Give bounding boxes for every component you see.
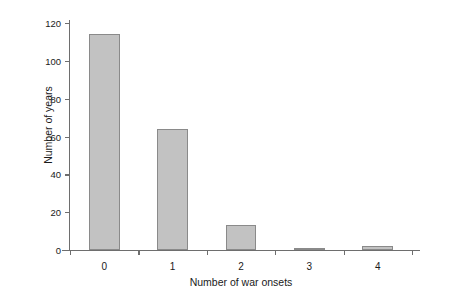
y-axis-tick-label: 120 <box>45 18 61 29</box>
y-axis-tick-label: 80 <box>50 93 61 104</box>
x-axis-tick-label: 4 <box>375 261 381 272</box>
y-axis-tick-label: 100 <box>45 55 61 66</box>
x-axis-tick <box>70 250 71 255</box>
plot-area: 02040608010012001234 <box>70 23 412 250</box>
x-axis-tick <box>207 250 208 255</box>
y-axis-tick-label: 20 <box>50 207 61 218</box>
x-axis-title: Number of war onsets <box>70 276 412 288</box>
y-axis-tick-label: 40 <box>50 169 61 180</box>
y-axis-tick <box>65 174 70 175</box>
y-axis-tick <box>65 212 70 213</box>
y-axis-tick <box>65 137 70 138</box>
x-axis-tick <box>138 250 139 255</box>
bar <box>89 34 120 250</box>
x-axis-tick <box>412 250 413 255</box>
bar-chart-figure: Number of years 02040608010012001234 Num… <box>0 0 449 303</box>
x-axis-tick <box>344 250 345 255</box>
x-axis-tick-label: 0 <box>101 261 107 272</box>
bar <box>294 248 325 250</box>
x-axis-tick-label: 1 <box>170 261 176 272</box>
y-axis-tick <box>65 23 70 24</box>
x-axis-tick-label: 2 <box>238 261 244 272</box>
bar <box>362 246 393 250</box>
bar <box>157 129 188 250</box>
x-axis-tick <box>275 250 276 255</box>
bar <box>226 225 257 250</box>
y-axis-tick <box>65 99 70 100</box>
y-axis-tick-label: 0 <box>56 245 61 256</box>
y-axis-tick <box>65 61 70 62</box>
x-axis-tick-label: 3 <box>307 261 313 272</box>
y-axis-tick-label: 60 <box>50 131 61 142</box>
